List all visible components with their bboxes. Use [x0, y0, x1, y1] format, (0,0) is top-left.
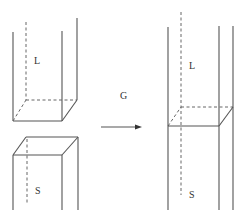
- arrow-g: [101, 125, 142, 130]
- label-s-left: S: [35, 185, 41, 196]
- diagram-canvas: L S G L S: [0, 0, 244, 221]
- arrowhead-icon: [135, 125, 142, 130]
- lower-prism-s: [13, 137, 78, 210]
- label-l-left: L: [34, 55, 40, 66]
- label-s-right: S: [189, 189, 195, 200]
- combined-prism: [168, 12, 233, 210]
- upper-prism-l: [13, 18, 77, 121]
- label-g: G: [120, 90, 127, 101]
- label-l-right: L: [189, 60, 195, 71]
